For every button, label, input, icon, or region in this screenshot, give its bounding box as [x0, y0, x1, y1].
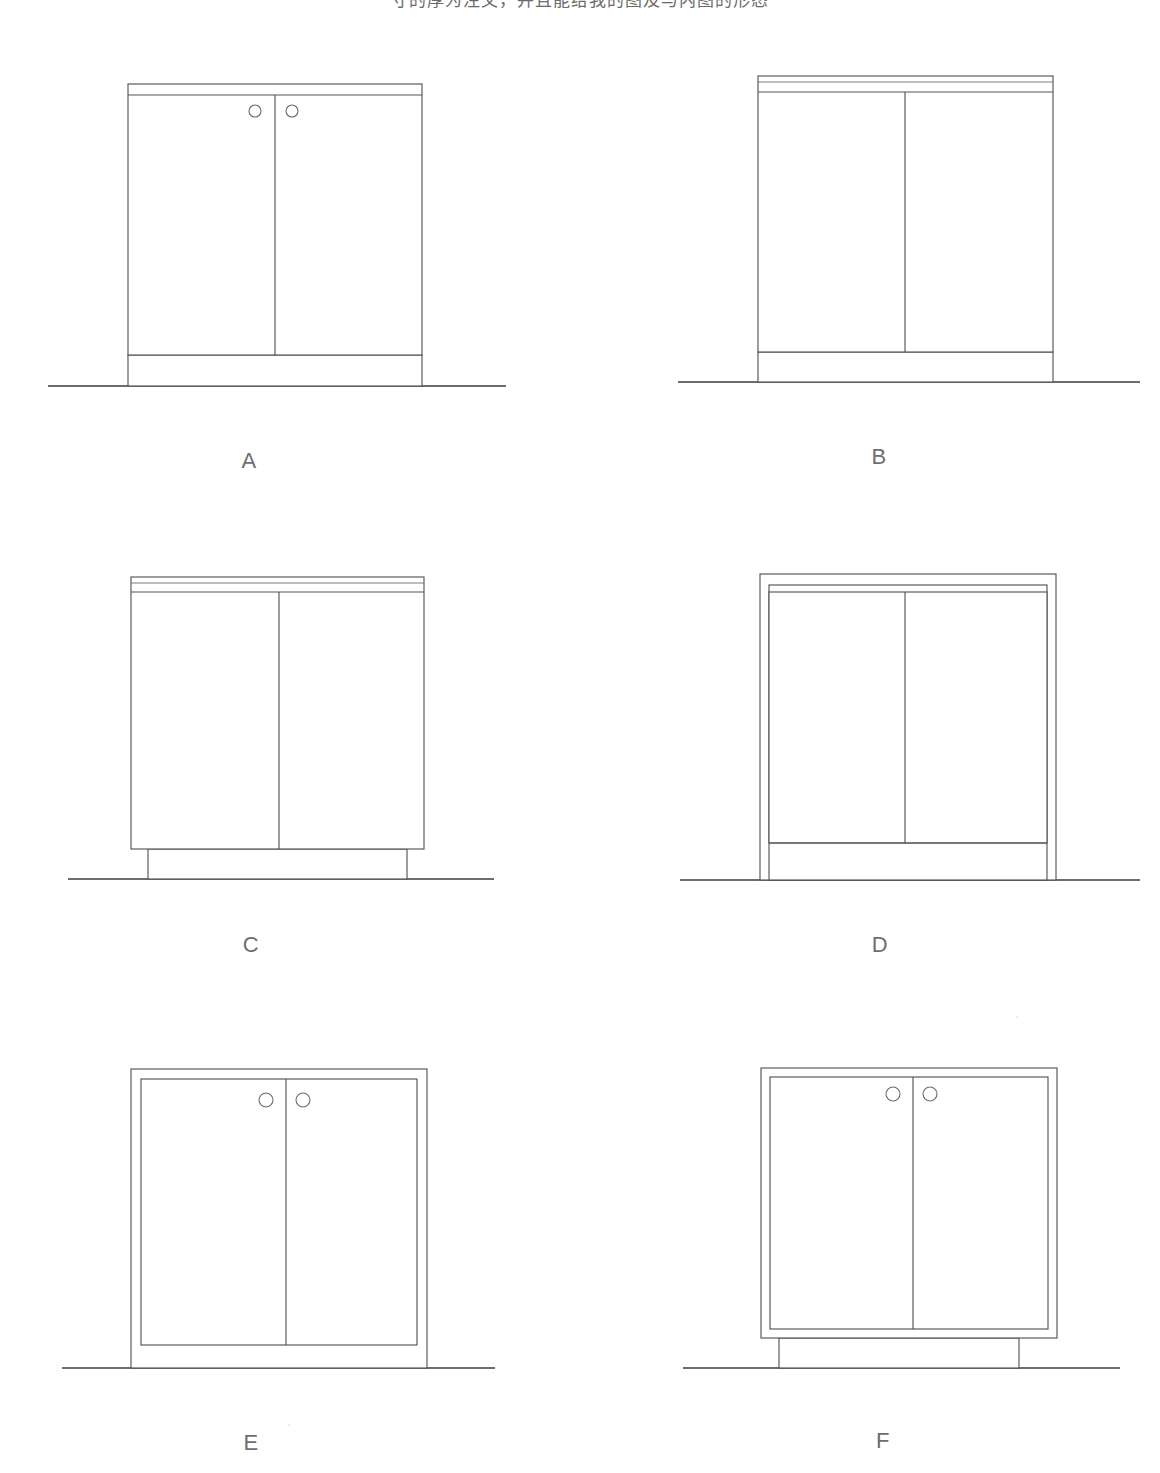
carcass-frame [761, 1068, 1057, 1338]
door-pair [769, 592, 1047, 843]
figure-label-e: E [221, 1430, 281, 1456]
figure-label-a: A [219, 448, 279, 474]
cabinet-body [131, 577, 424, 849]
base-plinth-recessed [779, 1338, 1019, 1368]
figure-label-b: B [849, 444, 909, 470]
scan-speck [1016, 1016, 1018, 1018]
door-knob-right[interactable] [296, 1093, 310, 1107]
carcass-frame [760, 574, 1056, 880]
door-pair [770, 1077, 1048, 1329]
base-plinth [758, 352, 1053, 382]
figure-a: A [0, 0, 600, 480]
figure-label-f: F [853, 1428, 913, 1454]
figure-a-drawing [0, 0, 600, 480]
door-knob-left[interactable] [886, 1087, 900, 1101]
door-pair [141, 1079, 417, 1345]
carcass-inner-opening [769, 585, 1047, 880]
scan-speck [288, 1424, 290, 1426]
figure-label-d: D [850, 932, 910, 958]
carcass-frame [131, 1069, 427, 1368]
door-knob-right[interactable] [923, 1087, 937, 1101]
base-plinth [128, 355, 422, 386]
base-plinth-recessed [148, 849, 407, 879]
cabinet-body [758, 76, 1053, 352]
door-knob-left[interactable] [259, 1093, 273, 1107]
figure-label-c: C [221, 932, 281, 958]
